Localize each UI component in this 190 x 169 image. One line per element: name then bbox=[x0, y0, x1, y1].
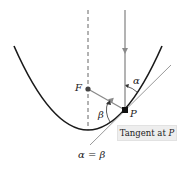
tangent-label-box: Tangent at P bbox=[117, 125, 177, 141]
ray-arrow-down-icon bbox=[122, 48, 128, 54]
diagram-canvas bbox=[0, 0, 190, 169]
focus-point bbox=[85, 86, 90, 91]
equality-formula: α = β bbox=[78, 149, 105, 160]
point-label: P bbox=[130, 108, 137, 119]
tangent-label-point: P bbox=[169, 128, 175, 138]
beta-arc bbox=[106, 102, 110, 122]
tangent-label-text: Tangent at bbox=[120, 128, 169, 138]
beta-label: β bbox=[98, 109, 104, 120]
parabola-diagram: F P α β Tangent at P α = β bbox=[0, 0, 190, 169]
alpha-label: α bbox=[133, 75, 140, 86]
focus-label: F bbox=[75, 82, 82, 93]
point-p bbox=[122, 107, 128, 113]
